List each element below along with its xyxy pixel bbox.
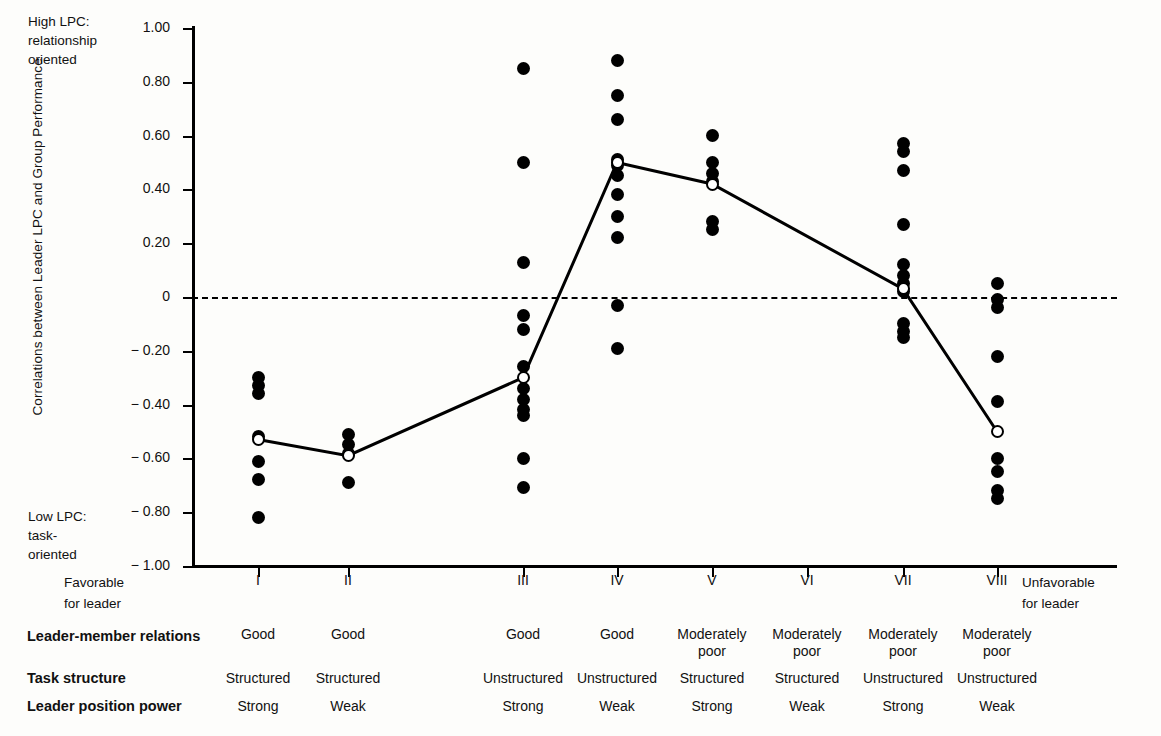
- y-tick-label: 0.20: [110, 234, 170, 250]
- table-cell-line: Weak: [937, 698, 1057, 715]
- table-cell-line: Good: [288, 626, 408, 643]
- table-cell-line: Unstructured: [937, 670, 1057, 687]
- table-row-label: Task structure: [27, 670, 126, 686]
- y-tick-label: 0.80: [110, 73, 170, 89]
- median-point: [342, 449, 355, 462]
- table-cell: Weak: [937, 698, 1057, 715]
- table-cell-line: Weak: [288, 698, 408, 715]
- y-tick-label: 0.60: [110, 127, 170, 143]
- table-cell-line: Structured: [288, 670, 408, 687]
- high-lpc-note-line-1: High LPC:: [28, 12, 97, 31]
- median-point: [517, 371, 530, 384]
- table-row-label: Leader position power: [27, 698, 182, 714]
- y-tick-label: 0: [110, 288, 170, 304]
- high-lpc-note-line-3: oriented: [28, 50, 97, 69]
- y-tick-mark: [183, 297, 192, 299]
- low-lpc-note-line-3: oriented: [28, 545, 87, 564]
- unfavorable-note: Unfavorable for leader: [1022, 572, 1095, 614]
- contingency-table: Leader-member relationsGoodGoodGoodGoodM…: [0, 620, 1161, 720]
- y-tick-label: − 0.40: [110, 396, 170, 412]
- x-tick-label: IV: [572, 572, 662, 588]
- table-cell: Good: [288, 626, 408, 643]
- y-tick-label: − 1.00: [110, 557, 170, 573]
- y-tick-mark: [183, 243, 192, 245]
- x-axis-tick-labels: IIIIIIIVVVIVIIVIII: [192, 572, 1117, 598]
- favorable-note: Favorable for leader: [64, 572, 124, 614]
- y-tick-mark: [183, 566, 192, 568]
- median-point: [991, 425, 1004, 438]
- unfavorable-note-line-1: Unfavorable: [1022, 572, 1095, 593]
- x-tick-label: II: [303, 572, 393, 588]
- median-point: [897, 282, 910, 295]
- x-tick-label: VII: [858, 572, 948, 588]
- median-point: [611, 156, 624, 169]
- median-point: [252, 433, 265, 446]
- y-tick-label: − 0.80: [110, 503, 170, 519]
- y-tick-label: − 0.60: [110, 449, 170, 465]
- x-tick-label: I: [213, 572, 303, 588]
- low-lpc-note: Low LPC: task- oriented: [28, 507, 87, 564]
- table-cell-line: Moderately: [937, 626, 1057, 643]
- table-cell: Structured: [288, 670, 408, 687]
- table-cell: Unstructured: [937, 670, 1057, 687]
- figure-root: Correlations between Leader LPC and Grou…: [0, 0, 1161, 736]
- favorable-note-line-1: Favorable: [64, 572, 124, 593]
- y-tick-label: − 0.20: [110, 342, 170, 358]
- x-tick-label: V: [667, 572, 757, 588]
- x-tick-label: VI: [762, 572, 852, 588]
- y-tick-mark: [183, 136, 192, 138]
- y-axis-tick-labels: 1.000.800.600.400.200− 0.20− 0.40− 0.60−…: [110, 0, 170, 600]
- high-lpc-note-line-2: relationship: [28, 31, 97, 50]
- y-tick-mark: [183, 512, 192, 514]
- y-tick-mark: [183, 351, 192, 353]
- unfavorable-note-line-2: for leader: [1022, 593, 1095, 614]
- median-point: [706, 178, 719, 191]
- low-lpc-note-line-2: task-: [28, 526, 87, 545]
- y-tick-mark: [183, 189, 192, 191]
- favorable-note-line-2: for leader: [64, 593, 124, 614]
- y-tick-mark: [183, 82, 192, 84]
- high-lpc-note: High LPC: relationship oriented: [28, 12, 97, 69]
- x-tick-label: III: [478, 572, 568, 588]
- y-tick-mark: [183, 28, 192, 30]
- table-cell-line: poor: [937, 643, 1057, 660]
- median-trend-line: [192, 28, 1117, 566]
- y-tick-mark: [183, 458, 192, 460]
- y-axis-title: Correlations between Leader LPC and Grou…: [30, 116, 45, 416]
- y-tick-label: 1.00: [110, 19, 170, 35]
- table-cell: Weak: [288, 698, 408, 715]
- y-tick-mark: [183, 405, 192, 407]
- table-row-label: Leader-member relations: [27, 628, 200, 644]
- low-lpc-note-line-1: Low LPC:: [28, 507, 87, 526]
- table-cell: Moderatelypoor: [937, 626, 1057, 660]
- plot-area: [192, 28, 1117, 566]
- y-tick-label: 0.40: [110, 180, 170, 196]
